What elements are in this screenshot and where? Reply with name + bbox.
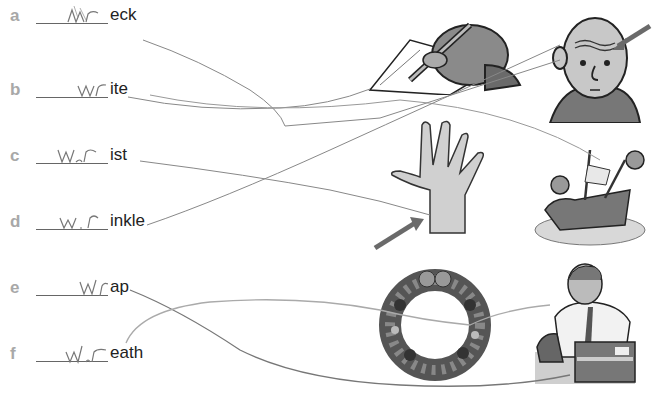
match-line-c	[140, 161, 430, 215]
match-line-a	[143, 40, 560, 126]
match-line-b2	[150, 95, 600, 160]
matching-lines	[0, 0, 654, 397]
match-line-f	[126, 300, 550, 343]
match-line-d	[147, 45, 560, 225]
